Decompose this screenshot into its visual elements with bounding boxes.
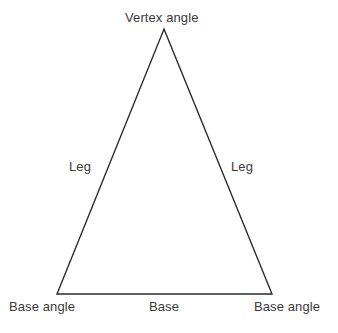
- isosceles-triangle-diagram: Vertex angle Leg Leg Base angle Base Bas…: [0, 0, 338, 333]
- label-base-angle-right: Base angle: [254, 299, 320, 314]
- label-leg-right: Leg: [231, 159, 253, 174]
- label-base-angle-left: Base angle: [9, 299, 75, 314]
- label-base: Base: [149, 299, 179, 314]
- label-vertex-angle: Vertex angle: [125, 10, 198, 25]
- label-leg-left: Leg: [69, 159, 91, 174]
- triangle-shape: [0, 0, 338, 333]
